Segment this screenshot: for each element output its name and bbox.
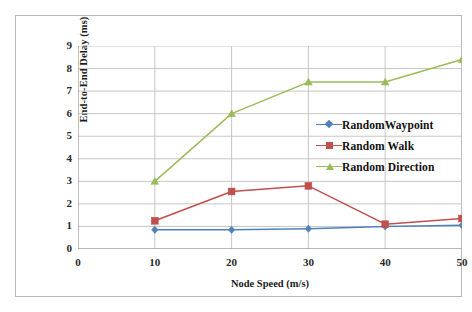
chart-legend: RandomWaypointRandom WalkRandom Directio… — [316, 114, 466, 177]
x-axis-tick-label: 50 — [447, 257, 472, 268]
legend-swatch-icon — [316, 119, 342, 131]
y-axis-tick-label: 6 — [56, 108, 72, 119]
legend-label: Random Direction — [342, 161, 434, 173]
x-axis-tick-label: 30 — [293, 257, 323, 268]
y-axis-tick-label: 0 — [56, 243, 72, 254]
y-axis-tick-label: 8 — [56, 63, 72, 74]
x-axis-tick-label: 40 — [370, 257, 400, 268]
y-axis-tick-labels: 9876543210 — [54, 46, 72, 249]
legend-label: RandomWaypoint — [342, 119, 434, 131]
y-axis-tick-label: 2 — [56, 198, 72, 209]
data-point-marker — [459, 222, 462, 229]
y-axis-tick-label: 5 — [56, 130, 72, 141]
legend-marker-icon — [325, 119, 333, 127]
x-axis-tick-label: 0 — [63, 257, 93, 268]
legend-label: Random Walk — [342, 140, 414, 152]
figure-frame: End-to-End Delay (ms) 9876543210 0102030… — [15, 15, 462, 297]
x-axis-tick-label: 10 — [140, 257, 170, 268]
data-point-marker — [228, 188, 235, 195]
data-point-marker — [152, 226, 158, 233]
legend-marker-icon — [326, 163, 334, 170]
y-axis-tick-label: 3 — [56, 175, 72, 186]
data-point-marker — [305, 182, 312, 189]
legend-swatch-icon — [316, 140, 342, 152]
y-axis-tick-label: 4 — [56, 153, 72, 164]
legend-item[interactable]: RandomWaypoint — [316, 114, 466, 135]
x-axis-tick-label: 20 — [217, 257, 247, 268]
legend-item[interactable]: Random Direction — [316, 156, 466, 177]
legend-marker-icon — [326, 142, 333, 149]
legend-item[interactable]: Random Walk — [316, 135, 466, 156]
data-point-marker — [151, 217, 158, 224]
data-series — [152, 222, 462, 234]
chart-screenshot: End-to-End Delay (ms) 9876543210 0102030… — [0, 0, 472, 312]
data-point-marker — [228, 226, 234, 233]
y-axis-tick-label: 7 — [56, 85, 72, 96]
data-point-marker — [382, 221, 389, 228]
legend-swatch-icon — [316, 161, 342, 173]
data-series — [151, 182, 462, 227]
data-point-marker — [458, 56, 462, 63]
x-axis-tick-labels: 01020304050 — [78, 257, 462, 271]
y-axis-tick-label: 9 — [56, 40, 72, 51]
x-axis-title: Node Speed (m/s) — [78, 278, 462, 289]
y-axis-tick-label: 1 — [56, 220, 72, 231]
data-point-marker — [459, 215, 462, 222]
